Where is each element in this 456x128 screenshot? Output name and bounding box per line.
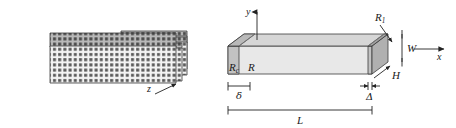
delta-cap-label: Δ (365, 91, 373, 102)
z-axis-arrow (155, 84, 176, 94)
stacked-mesh-panel: z (50, 31, 187, 94)
y-axis-label: y (245, 6, 251, 17)
slab-geometry-panel: y x Rc R R1 (228, 6, 444, 126)
height-dimension-label: H (391, 69, 401, 81)
figure-canvas: z y (0, 0, 456, 128)
resistance-body-label: R (247, 61, 255, 73)
svg-text:R1: R1 (374, 11, 385, 25)
length-dimension-label: L (296, 114, 303, 126)
x-axis-label: x (436, 51, 442, 62)
delta-small-label: δ (236, 90, 242, 101)
z-axis-label: z (146, 83, 151, 94)
slab-end-strip-face (368, 46, 372, 74)
width-dimension-label: W (407, 42, 417, 54)
delta-cap-dimension (360, 82, 380, 90)
figure-root: z y (0, 0, 456, 128)
r1-subscript: 1 (382, 17, 386, 25)
mesh-layer-1 (50, 33, 176, 83)
